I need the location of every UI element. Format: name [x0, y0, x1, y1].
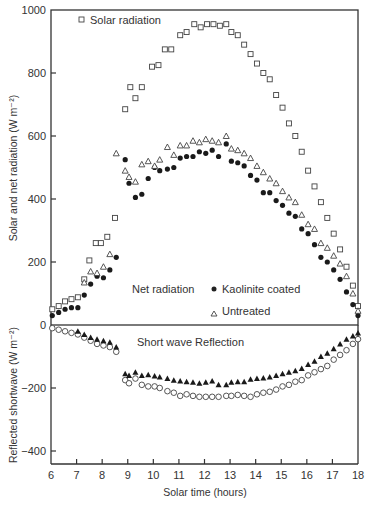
open-circle-marker — [305, 373, 311, 379]
filled-circle-marker — [274, 198, 279, 203]
open-circle-marker — [273, 387, 279, 393]
filled-triangle-marker — [312, 358, 318, 364]
y-tick-label: −400 — [21, 445, 46, 457]
filled-triangle-marker — [113, 344, 119, 350]
open-circle-marker — [261, 390, 267, 396]
open-square-marker — [75, 295, 80, 300]
open-square-marker — [312, 184, 317, 189]
x-tick-label: 14 — [250, 469, 262, 481]
filled-triangle-marker — [292, 368, 298, 374]
legend-untreated: Untreated — [222, 305, 270, 317]
open-circle-marker — [184, 392, 190, 398]
open-triangle-marker — [312, 226, 318, 232]
x-tick-label: 16 — [301, 469, 313, 481]
x-tick-label: 9 — [125, 469, 131, 481]
solar-square-icon — [79, 17, 84, 22]
filled-circle-marker — [88, 281, 93, 286]
filled-circle-marker — [286, 211, 291, 216]
filled-triangle-marker — [190, 379, 196, 385]
filled-triangle-marker — [305, 361, 311, 367]
open-triangle-marker — [203, 136, 209, 142]
y-tick-label: −200 — [21, 382, 46, 394]
open-circle-marker — [286, 382, 292, 388]
filled-triangle-marker — [299, 365, 305, 371]
open-circle-marker — [69, 330, 75, 336]
filled-triangle-marker — [107, 339, 113, 345]
open-square-marker — [139, 85, 144, 90]
open-circle-marker — [145, 384, 151, 390]
open-triangle-marker — [184, 142, 190, 148]
filled-triangle-marker — [324, 350, 330, 356]
filled-triangle-marker — [273, 372, 279, 378]
y-tick-label: 1000 — [22, 4, 46, 16]
filled-circle-marker — [280, 203, 285, 208]
open-square-marker — [286, 121, 291, 126]
open-circle-marker — [229, 393, 235, 399]
filled-circle-marker — [146, 176, 151, 181]
open-square-marker — [306, 168, 311, 173]
filled-circle-marker — [261, 190, 266, 195]
upper-y-axis-title: Solar and net radiation (W m⁻²) — [7, 95, 19, 242]
annotation-net-radiation: Net radiation — [132, 283, 194, 295]
open-triangle-marker — [122, 168, 128, 174]
filled-triangle-marker — [122, 371, 128, 377]
open-square-marker — [128, 85, 133, 90]
filled-circle-marker — [337, 277, 342, 282]
filled-circle-marker — [235, 160, 240, 165]
filled-circle-marker — [224, 141, 229, 146]
filled-triangle-marker — [235, 379, 241, 385]
filled-circle-marker — [62, 307, 67, 312]
open-triangle-marker — [223, 133, 229, 139]
filled-triangle-marker — [337, 341, 343, 347]
y-tick-label: 600 — [28, 130, 46, 142]
filled-triangle-marker — [331, 346, 337, 352]
filled-circle-marker — [69, 305, 74, 310]
open-triangle-marker — [235, 147, 241, 153]
open-triangle-marker — [273, 180, 279, 186]
open-circle-marker — [331, 357, 337, 363]
filled-triangle-marker — [196, 380, 202, 386]
open-circle-marker — [197, 394, 203, 400]
filled-circle-marker — [325, 259, 330, 264]
filled-triangle-marker — [228, 379, 234, 385]
open-square-marker — [98, 241, 103, 246]
open-circle-marker — [177, 393, 183, 399]
y-tick-label: 0 — [40, 319, 46, 331]
open-square-marker — [150, 64, 155, 69]
open-square-marker — [217, 23, 222, 28]
open-square-marker — [198, 25, 203, 30]
open-circle-marker — [209, 394, 215, 400]
filled-circle-marker — [210, 148, 215, 153]
open-triangle-marker — [280, 188, 286, 194]
open-square-marker — [254, 61, 259, 66]
filled-triangle-marker — [350, 333, 356, 339]
open-square-marker — [248, 52, 253, 57]
open-triangle-marker — [343, 273, 349, 279]
open-square-marker — [344, 264, 349, 269]
open-square-marker — [169, 47, 174, 52]
open-square-marker — [280, 105, 285, 110]
open-triangle-marker — [164, 144, 170, 150]
filled-circle-marker — [197, 149, 202, 154]
open-triangle-marker — [305, 221, 311, 227]
open-square-marker — [87, 258, 92, 263]
open-triangle-marker — [126, 174, 132, 180]
lower-y-axis-title: Reflected shortwave (W m⁻²) — [7, 327, 19, 463]
filled-triangle-marker — [355, 330, 361, 336]
filled-circle-marker — [254, 178, 259, 183]
open-square-marker — [242, 42, 247, 47]
open-triangle-marker — [145, 158, 151, 164]
filled-circle-marker — [50, 313, 55, 318]
open-circle-marker — [280, 384, 286, 390]
open-square-marker — [156, 63, 161, 68]
open-triangle-marker — [267, 176, 273, 182]
filled-circle-marker — [171, 165, 176, 170]
filled-triangle-marker — [203, 379, 209, 385]
x-axis-title: Solar time (hours) — [163, 486, 246, 498]
open-circle-marker — [62, 329, 68, 335]
open-circle-marker — [139, 382, 145, 388]
x-tick-label: 17 — [326, 469, 338, 481]
open-square-marker — [274, 93, 279, 98]
filled-triangle-marker — [223, 382, 229, 388]
open-square-marker — [211, 22, 216, 27]
